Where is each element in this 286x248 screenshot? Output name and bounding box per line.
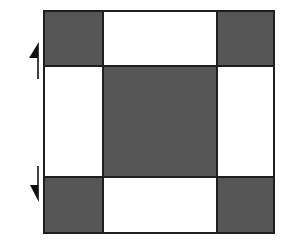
up-arrow-icon	[29, 42, 39, 79]
grid-cells	[44, 11, 274, 233]
center-square	[103, 66, 217, 177]
top-edge-rectangle	[103, 11, 217, 66]
right-edge-rectangle	[217, 66, 274, 177]
down-arrow-icon	[30, 166, 39, 202]
pattern-diagram	[0, 0, 286, 248]
bottom-edge-rectangle	[103, 177, 217, 233]
top-left-corner-square	[44, 11, 103, 66]
direction-arrows	[29, 42, 39, 202]
top-right-corner-square	[217, 11, 274, 66]
left-edge-rectangle	[44, 66, 103, 177]
bottom-left-corner-square	[44, 177, 103, 233]
bottom-right-corner-square	[217, 177, 274, 233]
